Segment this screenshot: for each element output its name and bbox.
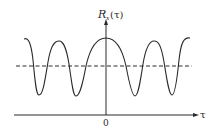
- y-axis-label-arg: (τ): [110, 9, 123, 20]
- autocorrelation-plot: R x (τ) τ 0: [0, 0, 212, 134]
- x-axis-arrow-icon: [193, 113, 199, 117]
- y-axis-label-main: R: [97, 8, 106, 21]
- origin-label: 0: [103, 118, 109, 128]
- autocorrelation-curve: [24, 38, 190, 96]
- x-axis-label: τ: [200, 109, 206, 120]
